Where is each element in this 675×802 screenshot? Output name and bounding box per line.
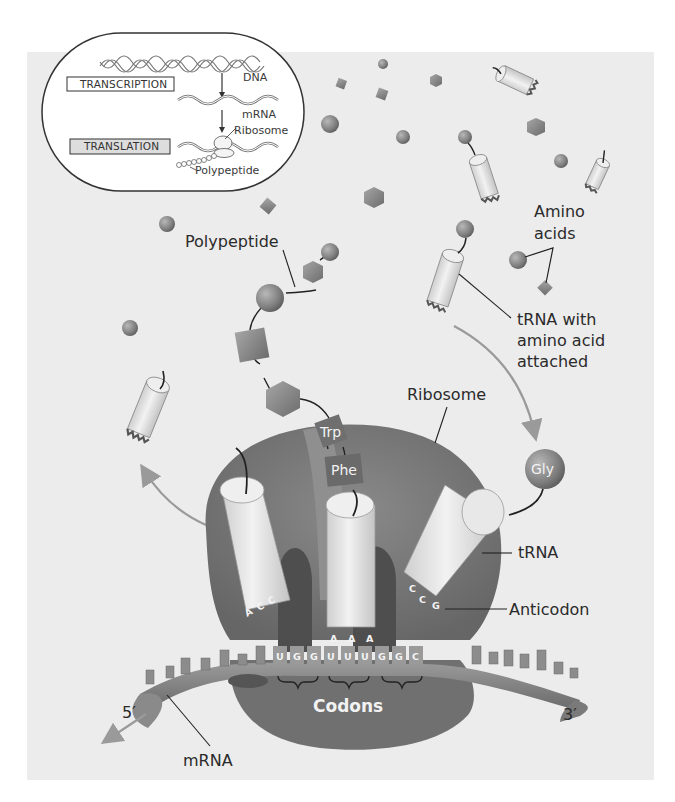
- codon-base: G: [310, 651, 318, 662]
- amino-acid-sphere-icon: [122, 320, 138, 336]
- codon-bases: U G G U U U G G C: [276, 651, 419, 662]
- phe-label: Phe: [331, 462, 357, 478]
- amino-acid-sphere-icon: [396, 130, 410, 144]
- three-prime-label: 3′: [563, 705, 577, 724]
- anticodon-base: C: [419, 594, 426, 605]
- codons-label: Codons: [313, 696, 383, 716]
- translation-label: TRANSLATION: [83, 140, 159, 152]
- trna-attached-label-3: attached: [517, 352, 588, 371]
- amino-acids-label-1: Amino: [534, 202, 585, 221]
- codon-base: U: [344, 651, 352, 662]
- ribosome-label: Ribosome: [407, 385, 486, 404]
- transcription-label: TRANSCRIPTION: [79, 78, 167, 90]
- translation-diagram: DNA TRANSCRIPTION mRNA TRANSLATION Ribos…: [0, 0, 675, 802]
- overview-inset: DNA TRANSCRIPTION mRNA TRANSLATION Ribos…: [42, 33, 304, 191]
- codon-base: U: [327, 651, 335, 662]
- amino-acid-sphere-icon: [321, 115, 339, 133]
- codon-base: U: [276, 651, 284, 662]
- trp-label: Trp: [319, 424, 341, 440]
- anticodon-base: G: [432, 600, 440, 611]
- codon-base: G: [293, 651, 301, 662]
- amino-acid-sphere-icon: [378, 59, 388, 69]
- amino-acids-label-2: acids: [534, 224, 576, 243]
- amino-acid-sphere-icon: [159, 216, 175, 232]
- inset-ribosome-icon: [214, 136, 232, 150]
- inset-ribosome-label: Ribosome: [234, 124, 289, 137]
- anticodon-base: A: [330, 633, 338, 644]
- amino-acid-sphere-icon: [554, 154, 568, 168]
- mrna-label: mRNA: [183, 751, 233, 770]
- inset-polypeptide-label: Polypeptide: [195, 164, 260, 177]
- anticodon-base: C: [409, 583, 416, 594]
- five-prime-label: 5′: [122, 703, 136, 722]
- codon-base: G: [395, 651, 403, 662]
- trna-attached-label-1: tRNA with: [517, 310, 596, 329]
- codon-base: G: [378, 651, 386, 662]
- anticodon-base: A: [348, 633, 356, 644]
- codon-base: U: [361, 651, 369, 662]
- inset-mrna-label: mRNA: [242, 108, 277, 121]
- anticodon-base: A: [366, 633, 374, 644]
- gly-label: Gly: [531, 461, 554, 477]
- anticodon-label: Anticodon: [509, 600, 589, 619]
- trna-p-site: A A A: [326, 490, 375, 644]
- codon-base: C: [412, 651, 419, 662]
- trna-label: tRNA: [518, 543, 558, 562]
- trna-attached-label-2: amino acid: [517, 331, 605, 350]
- polypeptide-label: Polypeptide: [185, 232, 279, 251]
- inset-dna-label: DNA: [243, 71, 268, 84]
